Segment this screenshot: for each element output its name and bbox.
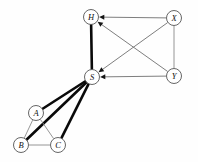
edge-a-c — [40, 120, 53, 139]
node-b[interactable]: B — [14, 138, 29, 153]
node-label-a: A — [32, 108, 39, 118]
node-x[interactable]: X — [167, 11, 182, 26]
node-label-c: C — [55, 140, 61, 150]
arrowhead-y-to-h — [98, 22, 104, 27]
graph-canvas: HXSYABC — [0, 0, 198, 162]
node-label-x: X — [170, 13, 177, 23]
node-h[interactable]: H — [84, 10, 99, 25]
graph-figure: HXSYABC — [0, 0, 198, 162]
arrowhead-layer — [98, 15, 106, 80]
edge-y-h — [101, 24, 168, 71]
node-s[interactable]: S — [85, 70, 100, 85]
node-y[interactable]: Y — [167, 69, 182, 84]
node-label-h: H — [87, 12, 95, 22]
edge-h-s — [91, 25, 92, 69]
arrowhead-y-to-s — [100, 74, 105, 79]
edge-layer — [24, 17, 174, 145]
edge-x-h — [103, 17, 166, 18]
edge-x-s — [102, 23, 168, 70]
edge-y-s — [104, 76, 166, 77]
arrowhead-x-to-s — [99, 67, 105, 72]
node-a[interactable]: A — [29, 106, 44, 121]
node-label-b: B — [18, 140, 23, 150]
node-c[interactable]: C — [51, 138, 66, 153]
arrowhead-x-to-h — [99, 15, 104, 20]
